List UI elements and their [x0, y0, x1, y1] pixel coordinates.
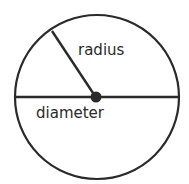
center-point [91, 92, 102, 103]
radius-label: radius [78, 41, 125, 59]
diameter-label: diameter [36, 104, 105, 122]
circle-diagram: radius diameter [0, 0, 189, 184]
